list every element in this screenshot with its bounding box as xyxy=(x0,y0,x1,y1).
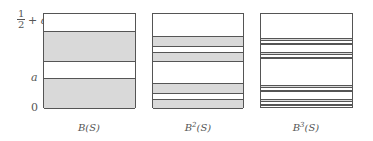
label-a: a xyxy=(31,71,38,84)
shaded-band xyxy=(261,104,352,106)
shaded-band xyxy=(261,57,352,59)
panel-b-s xyxy=(43,13,136,108)
shaded-band xyxy=(153,99,243,109)
shaded-band xyxy=(153,36,243,47)
label-zero: 0 xyxy=(31,101,38,114)
caption-b-s: B(S) xyxy=(59,121,119,133)
shaded-band xyxy=(261,38,352,41)
caption-b2-s: B2(S) xyxy=(168,121,228,133)
caption-b3-s: B3(S) xyxy=(276,121,336,133)
shaded-band xyxy=(261,90,352,92)
shaded-band xyxy=(44,31,135,62)
panel-b2-s xyxy=(152,13,244,108)
panel-b3-s xyxy=(260,13,353,108)
label-half-plus-a-fraction: 1 2 xyxy=(17,9,25,30)
shaded-band xyxy=(44,78,135,109)
shaded-band xyxy=(261,52,352,55)
shaded-band xyxy=(153,52,243,62)
shaded-band xyxy=(261,85,352,88)
shaded-band xyxy=(261,43,352,45)
shaded-band xyxy=(261,99,352,102)
shaded-band xyxy=(153,83,243,94)
